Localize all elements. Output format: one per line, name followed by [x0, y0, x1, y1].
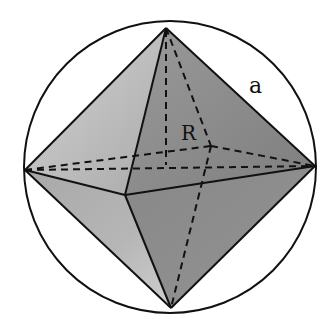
diagram-canvas: a R — [0, 0, 334, 329]
edge-label-a: a — [249, 73, 262, 98]
octahedron-diagram: a R — [0, 0, 334, 329]
radius-label-R: R — [181, 121, 197, 145]
